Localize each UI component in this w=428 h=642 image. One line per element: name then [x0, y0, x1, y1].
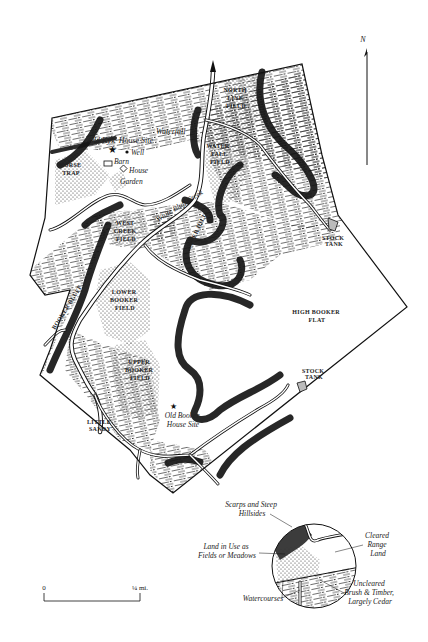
- scale-end-label: ¼ mi.: [132, 584, 148, 592]
- legend-label-scarps: Scarps and Steep Hillsides: [225, 500, 279, 518]
- scale-bar: 0 ¼ mi.: [42, 584, 148, 601]
- label-barn: Barn: [114, 157, 129, 166]
- creek-flow-arrow-icon: [210, 60, 216, 72]
- kyle-house-star-icon: ★: [108, 144, 117, 155]
- legend-label-watercourses: Watercourses: [243, 594, 283, 603]
- well-dot-icon: [125, 150, 128, 153]
- ranch-terrain: [20, 55, 345, 495]
- label-little-sandy: LITTLE SANDY: [87, 419, 113, 432]
- brush-south: [150, 440, 220, 495]
- north-arrow: N: [359, 35, 367, 165]
- barn-icon: [104, 161, 112, 166]
- scale-line: [44, 593, 140, 601]
- stock-tank-2-icon: [297, 381, 307, 392]
- label-high-booker-flat: HIGH BOOKER FLAT: [292, 309, 341, 323]
- label-north-line-field: NORTH LINE FIELD: [223, 87, 248, 109]
- label-well: Well: [131, 148, 144, 157]
- label-waterfall: Waterfall: [156, 127, 186, 136]
- lower-booker-field: [95, 262, 150, 345]
- scale-start-label: 0: [42, 584, 46, 592]
- scarp-high-booker: [178, 294, 280, 419]
- north-label: N: [359, 35, 366, 44]
- ranch-map: ★ ★ NORTH LINE FIELD WATER- FALL FIELD H…: [0, 0, 428, 642]
- label-stock-tank-1: STOCK TANK: [322, 235, 346, 247]
- legend: Scarps and Steep Hillsides Land in Use a…: [197, 500, 396, 615]
- label-west-creek-field: WEST CREEK FIELD: [114, 220, 139, 242]
- legend-label-fields: Land in Use as Fields or Meadows: [197, 542, 256, 560]
- label-garden: Garden: [120, 177, 143, 186]
- label-old-kyle-house-site: Old Kyle House Site: [88, 136, 154, 145]
- label-old-booker-house-site: Old Booker House Site: [165, 411, 202, 429]
- label-stock-tank-2: STOCK TANK: [302, 368, 326, 380]
- booker-house-star-icon: ★: [170, 402, 177, 411]
- legend-label-cleared: Cleared Range Land: [365, 531, 391, 558]
- label-house: House: [128, 166, 149, 175]
